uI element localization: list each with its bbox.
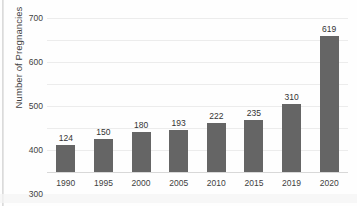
bar-group: 3102019 (273, 18, 311, 172)
y-axis-tick-label: 600 (29, 57, 43, 67)
bar[interactable] (94, 139, 113, 172)
bar[interactable] (320, 36, 339, 172)
bar-value-label: 180 (122, 120, 160, 130)
bar[interactable] (132, 132, 151, 172)
bar-group: 1932005 (160, 18, 198, 172)
bar[interactable] (207, 123, 226, 172)
x-axis-tick-label: 2020 (310, 178, 348, 188)
bar-group: 2222010 (198, 18, 236, 172)
bar[interactable] (56, 145, 75, 172)
bar-group: 1802000 (122, 18, 160, 172)
x-axis-tick-label: 2000 (122, 178, 160, 188)
bar-series: 1241990150199518020001932005222201023520… (47, 18, 348, 172)
bar[interactable] (244, 120, 263, 172)
bar-chart: Number of Pregnancies 700600500400300200… (0, 0, 357, 206)
y-axis-tick-label: 700 (29, 13, 43, 23)
x-axis-tick-label: 1995 (85, 178, 123, 188)
bar[interactable] (169, 130, 188, 172)
gridline: 0 (47, 172, 348, 173)
bar[interactable] (282, 104, 301, 172)
x-axis-tick-label: 2010 (198, 178, 236, 188)
bar-value-label: 235 (235, 108, 273, 118)
y-axis-label: Number of Pregnancies (13, 0, 24, 128)
bar-group: 2352015 (235, 18, 273, 172)
bar-value-label: 619 (310, 24, 348, 34)
y-axis-tick-label: 300 (29, 189, 43, 199)
bar-group: 6192020 (310, 18, 348, 172)
x-axis-tick-label: 2019 (273, 178, 311, 188)
y-axis-tick-label: 500 (29, 101, 43, 111)
bar-value-label: 310 (273, 92, 311, 102)
y-axis-tick-label: 400 (29, 145, 43, 155)
bar-value-label: 150 (85, 127, 123, 137)
bar-value-label: 124 (47, 133, 85, 143)
plot-area: 7006005004003002001000 12419901501995180… (47, 18, 348, 172)
bar-value-label: 222 (198, 111, 236, 121)
x-axis-tick-label: 2015 (235, 178, 273, 188)
bar-group: 1241990 (47, 18, 85, 172)
bar-group: 1501995 (85, 18, 123, 172)
x-axis-tick-label: 2005 (160, 178, 198, 188)
bar-value-label: 193 (160, 118, 198, 128)
x-axis-tick-label: 1990 (47, 178, 85, 188)
